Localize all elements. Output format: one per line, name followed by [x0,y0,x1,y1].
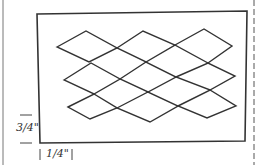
diamond-lattice [57,29,236,122]
vertical-dimension-label: 3/4" [16,121,39,134]
horizontal-dimension-label: 1/4" [46,147,69,160]
lattice-diagram [0,0,257,165]
